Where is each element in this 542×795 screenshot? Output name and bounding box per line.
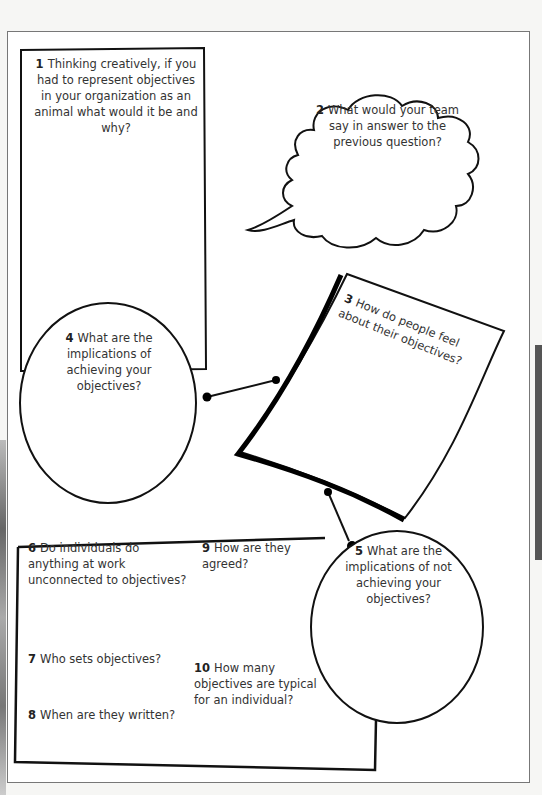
- question-1: 1Thinking creatively, if you had to repr…: [30, 56, 202, 136]
- question-7: 7Who sets objectives?: [28, 651, 193, 667]
- question-2: 2What would your team say in answer to t…: [305, 102, 470, 150]
- question-5: 5What are the implications of not achiev…: [326, 543, 471, 607]
- question-9: 9How are they agreed?: [202, 540, 337, 572]
- question-10: 10How many objectives are typical for an…: [194, 660, 324, 708]
- question-8: 8When are they written?: [28, 707, 193, 723]
- question-6: 6Do individuals do anything at work unco…: [28, 540, 193, 588]
- question-4: 4What are the implications of achieving …: [38, 330, 180, 394]
